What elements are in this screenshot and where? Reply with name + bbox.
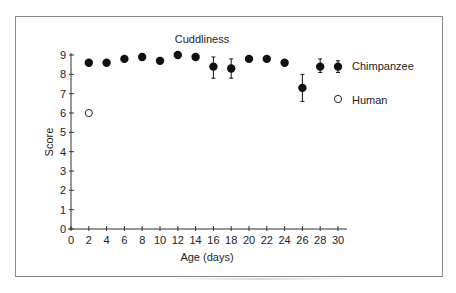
y-tick-label: 4 (60, 146, 66, 158)
y-tick-label: 6 (60, 107, 66, 119)
x-tick-label: 0 (68, 234, 74, 246)
chimpanzee-point (102, 59, 110, 67)
axes: 0123456789024681012141618202224262830 (60, 49, 347, 246)
chimpanzee-point (85, 59, 93, 67)
legend-label-human: Human (352, 94, 387, 106)
chimpanzee-point (209, 62, 217, 70)
y-tick-label: 9 (60, 49, 66, 61)
x-tick-label: 10 (154, 234, 166, 246)
chimpanzee-point (263, 55, 271, 63)
legend: Chimpanzee Human (334, 60, 413, 106)
x-tick-label: 12 (172, 234, 184, 246)
cuddliness-chart: Cuddliness 01234567890246810121416182022… (0, 0, 456, 293)
chimpanzee-point (156, 57, 164, 65)
legend-label-chimpanzee: Chimpanzee (352, 60, 414, 72)
chimpanzee-point (280, 59, 288, 67)
x-tick-label: 18 (225, 234, 237, 246)
x-tick-label: 6 (121, 234, 127, 246)
chimpanzee-point (316, 62, 324, 70)
y-tick-label: 3 (60, 165, 66, 177)
y-tick-label: 0 (60, 223, 66, 235)
y-tick-label: 1 (60, 204, 66, 216)
x-tick-label: 30 (332, 234, 344, 246)
chimpanzee-point (227, 64, 235, 72)
x-tick-label: 26 (296, 234, 308, 246)
x-tick-label: 4 (104, 234, 110, 246)
x-tick-label: 14 (189, 234, 201, 246)
x-tick-label: 28 (314, 234, 326, 246)
human-point (85, 109, 92, 116)
x-tick-label: 24 (278, 234, 290, 246)
chimpanzee-point (298, 84, 306, 92)
y-tick-label: 5 (60, 126, 66, 138)
chimpanzee-point (174, 51, 182, 59)
x-tick-label: 2 (86, 234, 92, 246)
x-tick-label: 8 (139, 234, 145, 246)
chimpanzee-point (245, 55, 253, 63)
chart-title: Cuddliness (175, 33, 230, 45)
x-tick-label: 22 (261, 234, 273, 246)
y-axis-label: Score (43, 128, 55, 157)
x-tick-label: 20 (243, 234, 255, 246)
chimpanzee-point (334, 62, 342, 70)
x-tick-label: 16 (207, 234, 219, 246)
x-axis-label: Age (days) (180, 251, 233, 263)
chimpanzee-point (191, 53, 199, 61)
human-legend-marker (334, 95, 341, 102)
y-tick-label: 2 (60, 184, 66, 196)
chimpanzee-point (120, 55, 128, 63)
y-tick-label: 8 (60, 68, 66, 80)
data-points (85, 51, 343, 117)
chimpanzee-point (138, 53, 146, 61)
y-tick-label: 7 (60, 88, 66, 100)
